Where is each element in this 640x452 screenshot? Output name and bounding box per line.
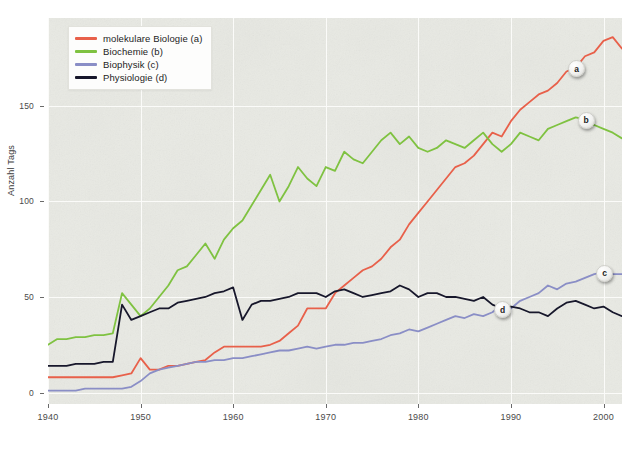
y-tick-mark bbox=[40, 297, 44, 298]
series-line-b bbox=[48, 117, 622, 344]
legend-item-label: molekulare Biologie (a) bbox=[103, 33, 202, 44]
endpoint-badge-d: d bbox=[494, 301, 511, 318]
legend-color-swatch bbox=[75, 76, 97, 79]
chart-legend: molekulare Biologie (a)Biochemie (b)Biop… bbox=[68, 26, 212, 90]
legend-item-label: Biophysik (c) bbox=[103, 59, 159, 70]
x-tick-label: 1960 bbox=[223, 412, 244, 422]
legend-item-label: Biochemie (b) bbox=[103, 46, 163, 57]
legend-item: Biophysik (c) bbox=[75, 58, 202, 71]
y-axis-label: Anzahl Tags bbox=[6, 145, 16, 196]
x-tick-label: 1950 bbox=[130, 412, 151, 422]
endpoint-badge-b: b bbox=[578, 112, 595, 129]
x-tick-label: 2000 bbox=[593, 412, 614, 422]
y-tick-label: 0 bbox=[0, 388, 34, 398]
legend-item: molekulare Biologie (a) bbox=[75, 32, 202, 45]
legend-color-swatch bbox=[75, 63, 97, 66]
x-tick-mark bbox=[511, 404, 512, 408]
x-tick-mark bbox=[48, 404, 49, 408]
chart-figure: Anzahl Tags 050100150 194019501960197019… bbox=[0, 0, 640, 452]
legend-color-swatch bbox=[75, 50, 97, 53]
legend-color-swatch bbox=[75, 37, 97, 40]
y-tick-label: 100 bbox=[0, 196, 34, 206]
x-tick-mark bbox=[326, 404, 327, 408]
y-tick-mark bbox=[40, 106, 44, 107]
series-line-d bbox=[48, 286, 622, 366]
endpoint-badge-c: c bbox=[596, 265, 613, 282]
y-tick-mark bbox=[40, 393, 44, 394]
y-tick-label: 50 bbox=[0, 292, 34, 302]
y-tick-mark bbox=[40, 201, 44, 202]
x-tick-mark bbox=[418, 404, 419, 408]
x-tick-mark bbox=[233, 404, 234, 408]
x-tick-label: 1990 bbox=[500, 412, 521, 422]
legend-item: Biochemie (b) bbox=[75, 45, 202, 58]
x-tick-mark bbox=[141, 404, 142, 408]
x-tick-label: 1980 bbox=[408, 412, 429, 422]
x-tick-label: 1970 bbox=[315, 412, 336, 422]
series-line-c bbox=[48, 272, 622, 390]
y-tick-label: 150 bbox=[0, 101, 34, 111]
legend-item-label: Physiologie (d) bbox=[103, 72, 167, 83]
legend-item: Physiologie (d) bbox=[75, 71, 202, 84]
x-tick-label: 1940 bbox=[38, 412, 59, 422]
x-tick-mark bbox=[604, 404, 605, 408]
